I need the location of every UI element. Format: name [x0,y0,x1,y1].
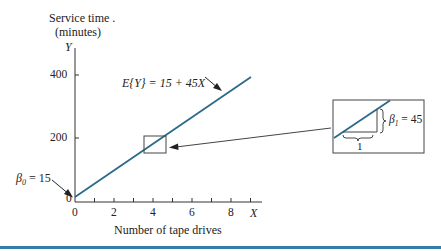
y-axis-title-line2: (minutes) [55,26,101,38]
x-tick-label-6: 6 [189,207,195,219]
equation-arrow [205,77,222,91]
x-axis-title: Number of tape drives [114,224,222,236]
x-tick-label-4: 4 [150,207,156,219]
y-tick-label-200: 200 [50,132,67,144]
regression-equation-label: E{Y} = 15 + 45X [122,77,205,89]
beta0-label: β0 = 15 [16,172,51,187]
y-axis-symbol: Y [65,41,72,53]
beta1-symbol: β1 [389,113,398,125]
x-ticks [95,198,251,202]
regression-line [75,77,251,197]
zoom-region-box [144,136,166,153]
y-axis-title-line1: Service time . [49,12,115,24]
x-tick-label-0: 0 [72,207,78,219]
beta0-symbol: β0 [16,171,26,185]
unit-step-label: 1 [357,141,363,152]
x-tick-label-8: 8 [228,207,234,219]
x-tick-label-2: 2 [111,207,117,219]
y-tick-label-400: 400 [50,69,67,81]
beta0-value: = 15 [29,171,51,185]
y-tick-label-0: 0 [66,193,72,205]
beta1-label: β1 = 45 [389,114,422,128]
bottom-rule [0,246,441,249]
zoom-connector-arrow [169,128,331,150]
beta1-value: = 45 [401,113,422,125]
x-axis-symbol: X [250,207,257,219]
